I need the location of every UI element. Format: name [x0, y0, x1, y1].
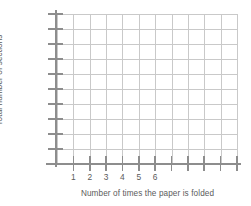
y-axis-tick: [48, 73, 63, 75]
chart-figure: Total number of sections 123456 Number o…: [0, 0, 251, 206]
y-axis-tick: [48, 133, 63, 135]
grid-line-horizontal: [57, 149, 237, 150]
x-axis-tick: [236, 156, 238, 171]
grid-line-horizontal: [57, 59, 237, 60]
x-axis-tick: [105, 156, 107, 171]
x-axis-tick: [171, 156, 173, 171]
x-axis-tick-label: 3: [97, 172, 115, 182]
plot-area: [57, 14, 237, 164]
grid-line-horizontal: [57, 44, 237, 45]
x-axis-tick: [220, 156, 222, 171]
x-axis-tick-label: 6: [146, 172, 164, 182]
grid-line-vertical: [237, 14, 238, 164]
y-axis-tick: [48, 58, 63, 60]
x-axis-tick: [154, 156, 156, 171]
y-axis-title: Total number of sections: [0, 0, 7, 165]
x-axis-title: Number of times the paper is folded: [50, 189, 245, 198]
x-axis-tick-label: 2: [81, 172, 99, 182]
x-axis-tick: [89, 156, 91, 171]
y-axis-tick: [48, 103, 63, 105]
grid-line-horizontal: [57, 14, 237, 15]
y-axis-tick: [48, 28, 63, 30]
grid-line-horizontal: [57, 134, 237, 135]
x-axis-tick: [187, 156, 189, 171]
y-axis-tick: [48, 43, 63, 45]
grid-line-horizontal: [57, 119, 237, 120]
x-axis-tick: [203, 156, 205, 171]
y-axis-tick: [48, 118, 63, 120]
grid-line-horizontal: [57, 104, 237, 105]
x-axis-tick-label: 1: [64, 172, 82, 182]
x-axis-tick-label: 5: [130, 172, 148, 182]
x-axis-tick: [138, 156, 140, 171]
grid-line-horizontal: [57, 29, 237, 30]
x-axis-tick: [73, 156, 75, 171]
x-axis-tick-label: 4: [113, 172, 131, 182]
y-axis-tick: [48, 88, 63, 90]
grid-line-horizontal: [57, 74, 237, 75]
y-axis-tick: [48, 13, 63, 15]
x-axis-tick: [122, 156, 124, 171]
x-axis-line: [46, 163, 241, 165]
grid-line-horizontal: [57, 89, 237, 90]
y-axis-tick: [48, 148, 63, 150]
